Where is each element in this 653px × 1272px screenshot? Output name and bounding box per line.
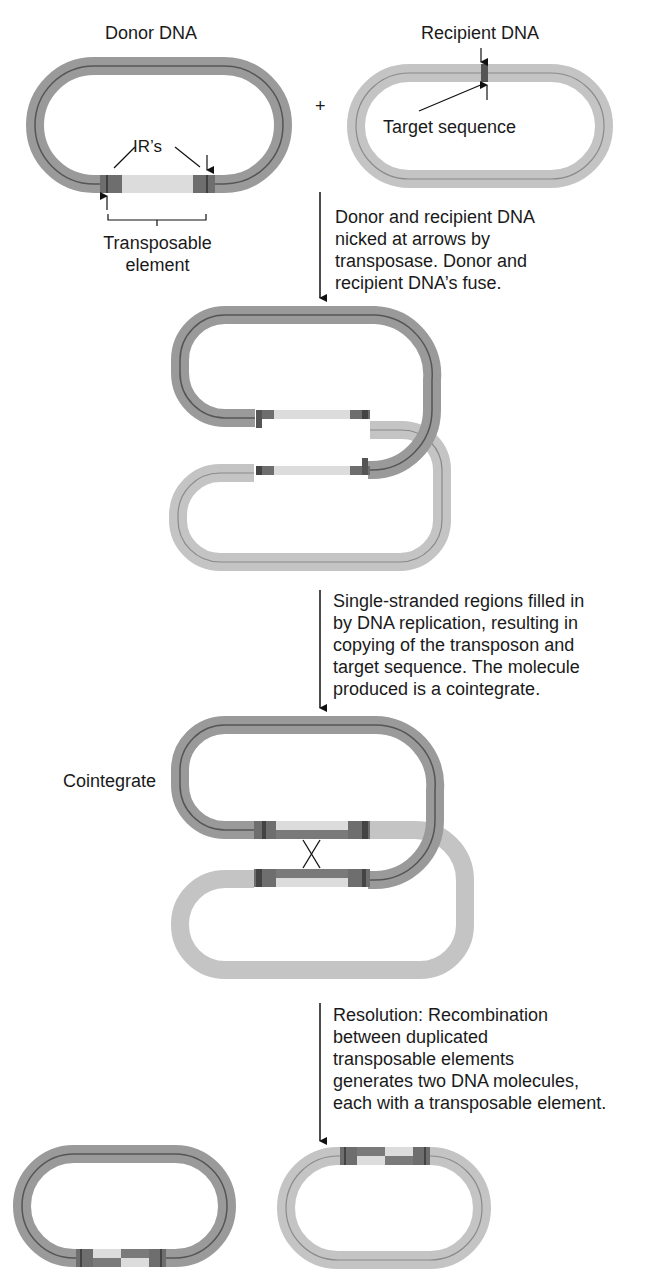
step-3-description: Resolution: Recombination between duplic… — [333, 1004, 606, 1114]
step-1-description: Donor and recipient DNA nicked at arrows… — [335, 206, 535, 294]
transposon-bracket — [108, 214, 206, 226]
step-2-description: Single-stranded regions filled in by DNA… — [333, 590, 584, 700]
recipient-dna-label: Recipient DNA — [421, 22, 539, 44]
cointegrate — [180, 725, 465, 970]
ir-left — [100, 175, 122, 193]
product-recipient-plasmid — [286, 1147, 482, 1260]
recipient-dna-plasmid — [356, 48, 604, 179]
fused-intermediate — [178, 315, 442, 562]
transposable-element-label: Transposable element — [90, 232, 225, 276]
donor-dna-label: Donor DNA — [105, 22, 197, 44]
target-sequence-label: Target sequence — [383, 116, 516, 138]
plus-sign: + — [315, 95, 326, 117]
product-donor-plasmid — [22, 1154, 227, 1267]
target-sequence-block — [481, 64, 488, 82]
irs-label: IR’s — [133, 136, 162, 158]
ir-right — [193, 175, 215, 193]
cointegrate-label: Cointegrate — [63, 770, 156, 792]
